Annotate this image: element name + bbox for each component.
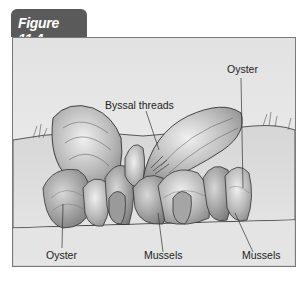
figure-tab: Figure 11.4 (11, 9, 87, 37)
label-oyster-top-right: Oyster (227, 63, 258, 75)
label-oyster-bottom-left: Oyster (46, 249, 77, 261)
illustration-frame: Byssal threads Oyster Oyster Mussels Mus… (12, 37, 296, 267)
label-mussels-center: Mussels (144, 249, 183, 261)
label-byssal-threads: Byssal threads (105, 99, 174, 111)
label-mussels-right: Mussels (242, 249, 281, 261)
